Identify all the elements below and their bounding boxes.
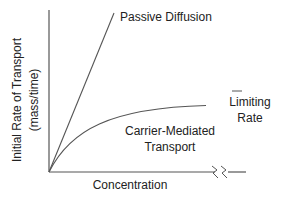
y-axis-label-line1: Initial Rate of Transport bbox=[10, 37, 24, 162]
transport-diagram: Passive Diffusion Carrier-Mediated Trans… bbox=[0, 0, 284, 201]
carrier-mediated-label-line2: Transport bbox=[145, 140, 197, 154]
axis-break-mark-2 bbox=[221, 166, 227, 178]
passive-diffusion-line bbox=[49, 13, 114, 172]
y-axis-label-line2: (mass/time) bbox=[27, 69, 41, 132]
limiting-rate-label-line1: Limiting bbox=[229, 95, 270, 109]
carrier-mediated-label-line1: Carrier-Mediated bbox=[125, 124, 215, 138]
limiting-rate-label-line2: Rate bbox=[237, 111, 263, 125]
passive-diffusion-label: Passive Diffusion bbox=[120, 10, 212, 24]
x-axis-label: Concentration bbox=[93, 178, 168, 192]
